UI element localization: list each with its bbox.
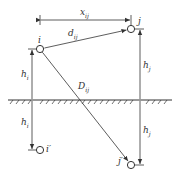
h-j-top-label: hj [143,61,151,72]
d-ij-line [45,30,127,48]
node-i-label: i [38,36,41,45]
node-j [127,25,134,32]
h-j-bottom-label: hj [143,126,151,137]
h-i-top-label: hi [21,70,29,81]
node-i [36,45,43,52]
x-ij-label: xij [80,8,89,19]
h-j-dimension [135,29,144,165]
diagram-svg [0,0,180,180]
node-i-image-label: i′ [46,145,51,154]
node-j-image-label: j′ [118,157,123,166]
ground-surface [8,100,172,104]
node-j-image [127,161,134,168]
d-ij-label: dij [68,29,78,40]
node-i-image [36,146,43,153]
diagram-canvas: xij dij Dij hi hi hj hj i j i′ j′ [0,0,180,180]
D-ij-line [43,53,128,161]
h-i-bottom-label: hi [21,118,29,129]
D-ij-label: Dij [78,82,89,93]
node-j-label: j [138,17,141,26]
